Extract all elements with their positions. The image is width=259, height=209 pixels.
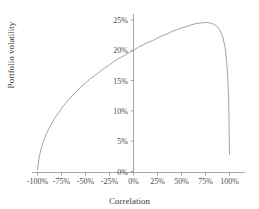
x-tick-label-100: 100% [220,177,239,186]
y-tick-label-5: 5% [108,137,128,146]
y-tick-label-10: 10% [108,106,128,115]
chart-figure: 0% 5% 10% 15% 20% 25% -100% -75% -50% -2… [0,0,259,209]
x-tick-label-75: 75% [198,177,213,186]
y-tick-label-20: 20% [108,46,128,55]
y-tick-label-25: 25% [108,16,128,25]
x-tick-label-0: 0% [128,177,139,186]
x-tick-label-25: 25% [150,177,165,186]
x-tick-label-neg25: -25% [101,177,118,186]
x-tick-label-neg75: -75% [53,177,70,186]
x-tick-label-neg50: -50% [77,177,94,186]
x-axis-title: Correlation [0,196,259,206]
x-tick-label-50: 50% [174,177,189,186]
x-tick-label-neg100: -100% [27,177,48,186]
x-axis-ticks [38,173,230,176]
y-axis-title: Portfolio volatility [6,0,16,110]
y-tick-label-15: 15% [108,76,128,85]
y-tick-label-0: 0% [108,167,128,176]
y-axis-ticks [131,20,134,172]
